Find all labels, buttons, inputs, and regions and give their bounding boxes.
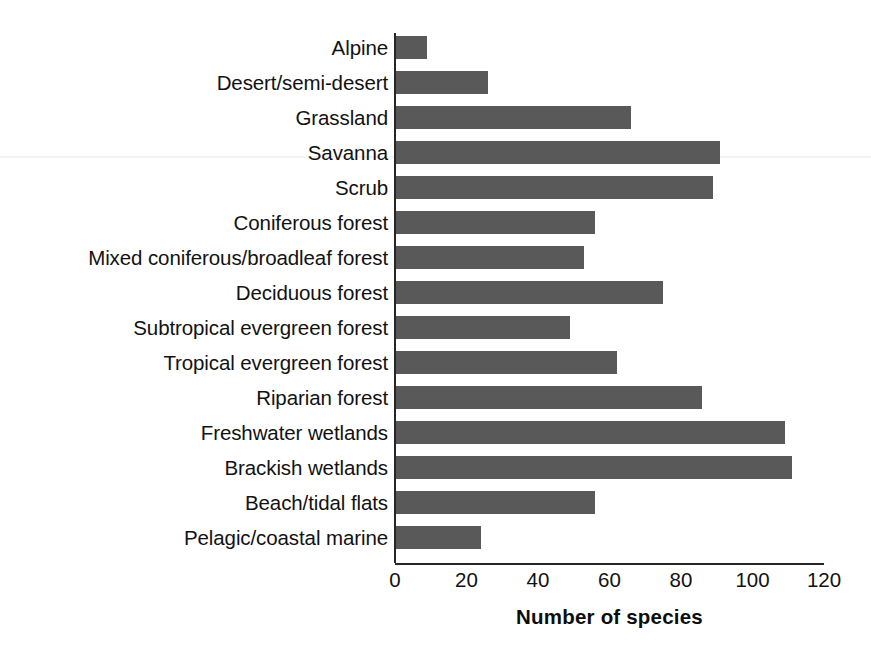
bar-row: Tropical evergreen forest bbox=[0, 345, 871, 380]
category-label: Riparian forest bbox=[256, 380, 388, 415]
bar[interactable] bbox=[395, 386, 702, 409]
category-label: Alpine bbox=[332, 30, 388, 65]
category-label: Mixed coniferous/broadleaf forest bbox=[88, 240, 388, 275]
x-tick-label: 40 bbox=[498, 568, 578, 592]
x-axis-tick-labels: 020406080100120 bbox=[0, 568, 871, 598]
bar-row: Riparian forest bbox=[0, 380, 871, 415]
category-label: Deciduous forest bbox=[236, 275, 388, 310]
category-label: Freshwater wetlands bbox=[201, 415, 388, 450]
bar[interactable] bbox=[395, 351, 617, 374]
category-label: Desert/semi-desert bbox=[217, 65, 388, 100]
bar-row: Deciduous forest bbox=[0, 275, 871, 310]
bar-row: Beach/tidal flats bbox=[0, 485, 871, 520]
x-tick-label: 80 bbox=[641, 568, 721, 592]
bar-row: Pelagic/coastal marine bbox=[0, 520, 871, 555]
category-label: Beach/tidal flats bbox=[245, 485, 388, 520]
species-habitat-bar-chart: AlpineDesert/semi-desertGrasslandSavanna… bbox=[0, 0, 871, 664]
category-label: Scrub bbox=[335, 170, 388, 205]
bar[interactable] bbox=[395, 316, 570, 339]
category-label: Tropical evergreen forest bbox=[163, 345, 388, 380]
bar-row: Coniferous forest bbox=[0, 205, 871, 240]
bar[interactable] bbox=[395, 36, 427, 59]
x-axis-title: Number of species bbox=[395, 605, 824, 629]
bar-row: Savanna bbox=[0, 135, 871, 170]
bar-row: Subtropical evergreen forest bbox=[0, 310, 871, 345]
bar[interactable] bbox=[395, 491, 595, 514]
bar[interactable] bbox=[395, 526, 481, 549]
bar[interactable] bbox=[395, 211, 595, 234]
x-tick-label: 0 bbox=[355, 568, 435, 592]
bar-rows: AlpineDesert/semi-desertGrasslandSavanna… bbox=[0, 30, 871, 555]
bar-row: Grassland bbox=[0, 100, 871, 135]
bar[interactable] bbox=[395, 141, 720, 164]
bar[interactable] bbox=[395, 281, 663, 304]
bar-row: Desert/semi-desert bbox=[0, 65, 871, 100]
category-label: Subtropical evergreen forest bbox=[133, 310, 388, 345]
category-label: Grassland bbox=[295, 100, 388, 135]
category-label: Brackish wetlands bbox=[224, 450, 388, 485]
bar-row: Brackish wetlands bbox=[0, 450, 871, 485]
x-tick-label: 100 bbox=[713, 568, 793, 592]
bar[interactable] bbox=[395, 176, 713, 199]
x-tick-label: 20 bbox=[427, 568, 507, 592]
bar-row: Mixed coniferous/broadleaf forest bbox=[0, 240, 871, 275]
bar[interactable] bbox=[395, 106, 631, 129]
bar-row: Scrub bbox=[0, 170, 871, 205]
bar[interactable] bbox=[395, 456, 792, 479]
category-label: Coniferous forest bbox=[234, 205, 388, 240]
y-axis-line bbox=[394, 33, 396, 563]
bar-row: Freshwater wetlands bbox=[0, 415, 871, 450]
x-tick-label: 120 bbox=[784, 568, 864, 592]
plot-area: AlpineDesert/semi-desertGrasslandSavanna… bbox=[0, 0, 871, 664]
bar-row: Alpine bbox=[0, 30, 871, 65]
x-axis-line bbox=[395, 563, 824, 565]
category-label: Pelagic/coastal marine bbox=[184, 520, 388, 555]
bar[interactable] bbox=[395, 421, 785, 444]
x-tick-label: 60 bbox=[570, 568, 650, 592]
bar[interactable] bbox=[395, 246, 584, 269]
bar[interactable] bbox=[395, 71, 488, 94]
category-label: Savanna bbox=[308, 135, 388, 170]
